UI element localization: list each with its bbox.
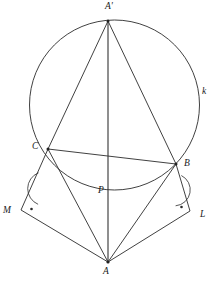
label-p: P: [98, 186, 104, 196]
segment-c-b: [48, 149, 176, 164]
segment-aprime-b: [108, 21, 176, 164]
segment-b-a: [108, 164, 176, 262]
label-a: A: [103, 267, 109, 277]
vertex-aprime: [107, 20, 110, 23]
segment-l-a: [108, 211, 190, 262]
label-l: L: [200, 210, 205, 220]
right-angle-dot-l: [180, 206, 183, 209]
right-angle-arc-l: [176, 176, 191, 206]
segment-m-a: [21, 210, 108, 262]
right-angle-arc-m: [28, 173, 39, 205]
segment-c-m: [21, 149, 48, 210]
vertex-b: [175, 163, 178, 166]
segment-c-a: [48, 149, 108, 262]
label-a-prime: A': [105, 2, 113, 12]
segment-aprime-c: [48, 21, 108, 149]
right-angle-dot-m: [30, 208, 33, 211]
label-k: k: [202, 87, 206, 97]
vertex-a: [106, 260, 109, 263]
vertex-c: [47, 148, 50, 151]
segment-b-l: [176, 164, 190, 211]
label-c: C: [32, 142, 38, 152]
label-m: M: [3, 206, 11, 216]
geometry-figure: A' C B P M L A k: [0, 0, 215, 290]
label-b: B: [184, 159, 190, 169]
circle-k: [30, 20, 200, 190]
